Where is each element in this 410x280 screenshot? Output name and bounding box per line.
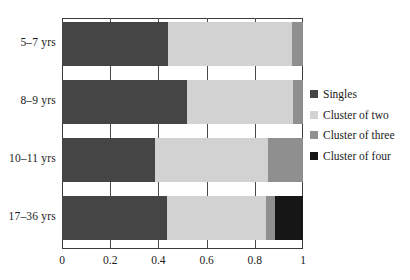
bar-segment bbox=[62, 196, 167, 240]
legend-swatch-icon bbox=[310, 131, 318, 139]
bar-row bbox=[62, 138, 303, 182]
bar-segment bbox=[167, 196, 266, 240]
legend-label: Cluster of two bbox=[323, 109, 389, 121]
legend-swatch-icon bbox=[310, 90, 318, 98]
bar-segment bbox=[293, 80, 303, 124]
legend-item[interactable]: Singles bbox=[310, 88, 395, 100]
legend-label: Singles bbox=[323, 88, 357, 100]
bar-segment bbox=[62, 80, 187, 124]
bar-segment bbox=[62, 22, 168, 66]
category-label: 5–7 yrs bbox=[20, 36, 56, 48]
bar-segment bbox=[275, 196, 303, 240]
legend-swatch-icon bbox=[310, 152, 318, 160]
bar-row bbox=[62, 22, 303, 66]
bar-segment bbox=[62, 138, 155, 182]
x-tick-label: 0 bbox=[59, 254, 65, 266]
legend-item[interactable]: Cluster of two bbox=[310, 109, 395, 121]
bar-segment bbox=[155, 138, 268, 182]
bar-segment bbox=[268, 138, 303, 182]
category-label: 10–11 yrs bbox=[9, 152, 56, 164]
bar-segment bbox=[292, 22, 303, 66]
legend-label: Cluster of four bbox=[323, 150, 391, 162]
x-tick-label: 0.8 bbox=[248, 254, 262, 266]
legend-swatch-icon bbox=[310, 111, 318, 119]
bar-row bbox=[62, 196, 303, 240]
x-tick-label: 0.4 bbox=[151, 254, 165, 266]
bar-segment bbox=[168, 22, 292, 66]
bar-segment bbox=[266, 196, 276, 240]
category-label: 17–36 yrs bbox=[9, 210, 56, 222]
legend: SinglesCluster of twoCluster of threeClu… bbox=[310, 88, 395, 162]
legend-item[interactable]: Cluster of three bbox=[310, 129, 395, 141]
stacked-bar-chart: 5–7 yrs8–9 yrs10–11 yrs17–36 yrs 00.20.4… bbox=[0, 0, 410, 280]
x-tick-label: 1 bbox=[300, 254, 306, 266]
x-tick-label: 0.6 bbox=[199, 254, 213, 266]
plot-bottom-border bbox=[62, 248, 303, 249]
bar-row bbox=[62, 80, 303, 124]
legend-label: Cluster of three bbox=[323, 129, 395, 141]
legend-item[interactable]: Cluster of four bbox=[310, 150, 395, 162]
x-tick-label: 0.2 bbox=[103, 254, 117, 266]
bar-segment bbox=[187, 80, 293, 124]
category-label: 8–9 yrs bbox=[20, 94, 56, 106]
